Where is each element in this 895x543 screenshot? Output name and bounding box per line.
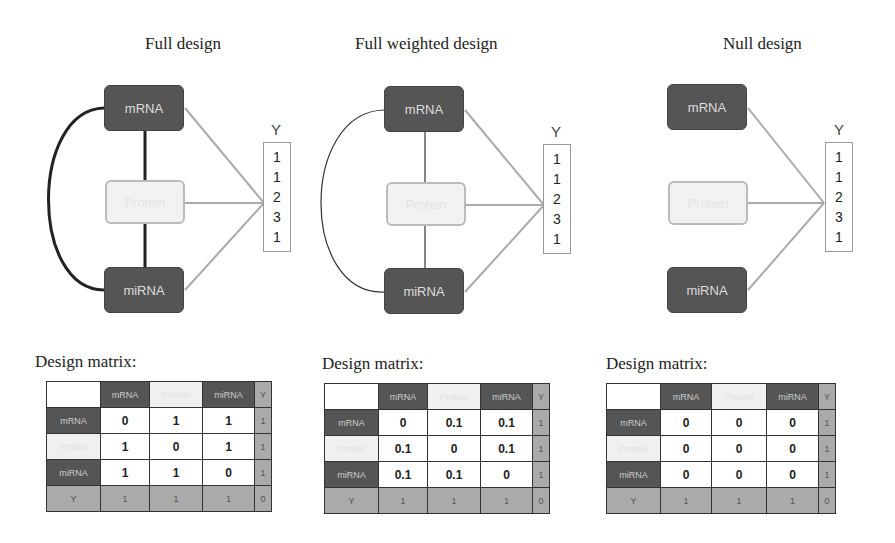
cell: 0.1 [428, 410, 481, 436]
y-cell: 1 [379, 488, 428, 514]
table-row: Y 1 1 1 0 [325, 488, 550, 514]
node-mrna: mRNA [384, 86, 464, 132]
y-label: Y [271, 121, 281, 138]
cell: 1 [203, 408, 255, 434]
cell: 0 [767, 462, 819, 488]
cell: 0.1 [481, 410, 533, 436]
y-value: 2 [826, 187, 852, 207]
y-vector: 1 1 2 3 1 [825, 142, 853, 252]
cell: 0 [661, 462, 712, 488]
node-mrna: mRNA [104, 85, 184, 131]
design-matrix-label: Design matrix: [606, 354, 708, 374]
row-header: miRNA [325, 462, 379, 488]
y-cell: 1 [428, 488, 481, 514]
table-row: mRNA 0 0 0 1 [607, 410, 836, 436]
col-header: Y [255, 382, 272, 408]
cell: 0 [767, 410, 819, 436]
node-mirna: miRNA [667, 267, 747, 313]
cell: 1 [150, 460, 203, 486]
col-header: miRNA [767, 384, 819, 410]
cell: 0 [428, 436, 481, 462]
table-row: miRNA 0.1 0.1 0 1 [325, 462, 550, 488]
table-row: Protein 0 0 0 1 [607, 436, 836, 462]
cell: 1 [203, 434, 255, 460]
cell: 0 [712, 462, 767, 488]
row-header: miRNA [607, 462, 661, 488]
cell: 0 [661, 436, 712, 462]
cell: 0 [767, 436, 819, 462]
col-header: mRNA [379, 384, 428, 410]
y-label: Y [834, 121, 844, 138]
row-header: miRNA [47, 460, 101, 486]
col-header: miRNA [203, 382, 255, 408]
cell: 0 [101, 408, 150, 434]
cell: 0.1 [428, 462, 481, 488]
col-header: mRNA [101, 382, 150, 408]
cell: 0.1 [379, 462, 428, 488]
y-cell: 1 [101, 486, 150, 512]
cell: 0.1 [481, 436, 533, 462]
y-value: 1 [826, 227, 852, 247]
node-protein: Protein [105, 180, 185, 224]
y-value: 1 [826, 167, 852, 187]
table-row: Y 1 1 1 0 [607, 488, 836, 514]
cell: 0 [712, 436, 767, 462]
design-matrix-label: Design matrix: [35, 352, 137, 372]
y-vector: 1 1 2 3 1 [543, 144, 571, 254]
y-value: 1 [264, 147, 290, 167]
cell: 0 [379, 410, 428, 436]
node-mirna: miRNA [384, 268, 464, 314]
table-row: mRNA 0 0.1 0.1 1 [325, 410, 550, 436]
corner-cell [607, 384, 661, 410]
table-header-row: mRNA Protein miRNA Y [325, 384, 550, 410]
cell: 0 [481, 462, 533, 488]
y-cell: 0 [819, 488, 836, 514]
y-vector: 1 1 2 3 1 [263, 142, 291, 252]
y-value: 3 [544, 209, 570, 229]
row-header: mRNA [325, 410, 379, 436]
y-cell: 1 [533, 436, 550, 462]
table-header-row: mRNA Protein miRNA Y [47, 382, 272, 408]
null-design-links [748, 108, 824, 290]
row-header: mRNA [607, 410, 661, 436]
y-value: 1 [544, 229, 570, 249]
row-header: Protein [325, 436, 379, 462]
y-cell: 1 [819, 462, 836, 488]
y-value: 2 [544, 189, 570, 209]
col-header: Protein [428, 384, 481, 410]
cell: 0 [712, 410, 767, 436]
table-row: Protein 1 0 1 1 [47, 434, 272, 460]
y-cell: 1 [255, 434, 272, 460]
row-header: Y [325, 488, 379, 514]
col-header: Y [819, 384, 836, 410]
row-header: Y [47, 486, 101, 512]
table-header-row: mRNA Protein miRNA Y [607, 384, 836, 410]
table-row: miRNA 1 1 0 1 [47, 460, 272, 486]
y-cell: 1 [661, 488, 712, 514]
cell: 1 [150, 408, 203, 434]
y-value: 1 [544, 169, 570, 189]
y-cell: 0 [255, 486, 272, 512]
col-header: Protein [712, 384, 767, 410]
y-value: 1 [264, 167, 290, 187]
cell: 0.1 [379, 436, 428, 462]
col-header: miRNA [481, 384, 533, 410]
col-header: Y [533, 384, 550, 410]
design-matrix-full: mRNA Protein miRNA Y mRNA 0 1 1 1 Protei… [46, 381, 272, 512]
node-protein: Protein [386, 182, 466, 226]
y-cell: 1 [481, 488, 533, 514]
corner-cell [47, 382, 101, 408]
row-header: Protein [607, 436, 661, 462]
table-row: mRNA 0 1 1 1 [47, 408, 272, 434]
y-cell: 1 [533, 462, 550, 488]
cell: 0 [203, 460, 255, 486]
table-row: Protein 0.1 0 0.1 1 [325, 436, 550, 462]
row-header: Protein [47, 434, 101, 460]
y-value: 2 [264, 187, 290, 207]
cell: 0 [661, 410, 712, 436]
design-matrix-weighted: mRNA Protein miRNA Y mRNA 0 0.1 0.1 1 Pr… [324, 383, 550, 514]
cell: 0 [150, 434, 203, 460]
design-matrix-null: mRNA Protein miRNA Y mRNA 0 0 0 1 Protei… [606, 383, 836, 514]
design-matrix-label: Design matrix: [322, 354, 424, 374]
y-cell: 1 [712, 488, 767, 514]
